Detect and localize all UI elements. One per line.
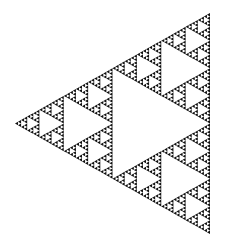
sierpinski-triangle: [0, 0, 228, 246]
sierpinski-figure: Sierpinski triangle: [0, 0, 228, 246]
background: [0, 0, 228, 246]
